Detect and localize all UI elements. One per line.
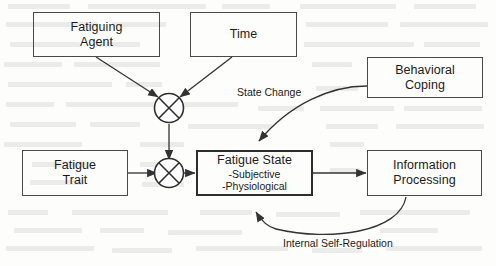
operator-combiner-top <box>155 94 184 123</box>
node-information-processing-line2: Processing <box>393 173 455 188</box>
node-fatiguing-agent[interactable]: Fatiguing Agent <box>33 12 160 57</box>
edge-time-to-combiner <box>180 57 232 97</box>
node-fatigue-state[interactable]: Fatigue State -Subjective -Physiological <box>196 150 313 196</box>
edge-label-state-change: State Change <box>237 86 301 98</box>
node-behavioral-coping-line1: Behavioral <box>395 63 455 78</box>
edge-fatiguing-agent-to-combiner <box>96 57 158 97</box>
node-fatiguing-agent-line1: Fatiguing <box>71 20 123 35</box>
node-fatigue-state-sub-subjective: -Subjective <box>229 168 281 180</box>
node-fatigue-trait-line2: Trait <box>63 173 88 188</box>
node-behavioral-coping-line2: Coping <box>405 78 445 93</box>
node-time-line1: Time <box>230 27 258 42</box>
node-fatigue-state-title: Fatigue State <box>217 153 292 168</box>
node-information-processing-line1: Information <box>393 158 456 173</box>
fatigue-model-diagram: Fatiguing Agent Time Behavioral Coping F… <box>0 0 496 266</box>
node-behavioral-coping[interactable]: Behavioral Coping <box>367 57 483 98</box>
node-fatigue-trait-line1: Fatigue <box>54 158 96 173</box>
edge-information-processing-to-fatigue-state <box>256 197 406 234</box>
node-information-processing[interactable]: Information Processing <box>367 150 482 196</box>
node-fatiguing-agent-line2: Agent <box>80 35 113 50</box>
edge-label-internal-self-regulation: Internal Self-Regulation <box>283 237 393 249</box>
node-fatigue-state-sub-physiological: -Physiological <box>222 180 287 192</box>
operator-combiner-bottom <box>155 159 184 188</box>
node-time[interactable]: Time <box>190 12 297 57</box>
node-fatigue-trait[interactable]: Fatigue Trait <box>22 150 128 196</box>
